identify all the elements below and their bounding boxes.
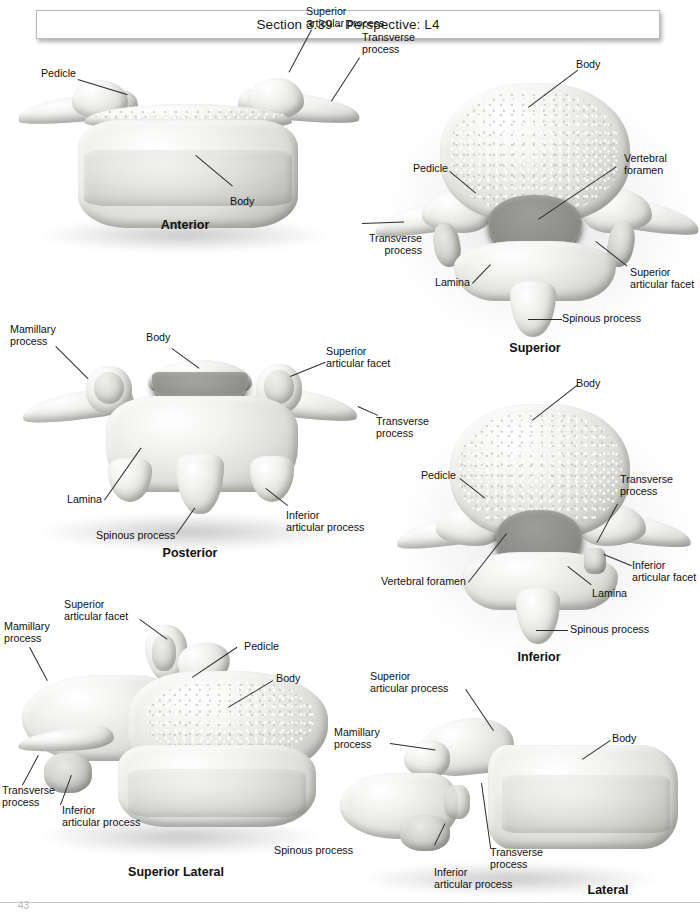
label-mamillary-process: Mamillary process <box>334 727 396 750</box>
label-mamillary-process: Mamillary process <box>4 621 66 644</box>
label-lamina: Lamina <box>52 494 102 506</box>
label-spinous-process: Spinous process <box>562 313 650 325</box>
atlas-page: Section 3.39 - Perspective: L4 Pedicle S… <box>0 0 700 913</box>
label-mamillary-process: Mamillary process <box>10 324 78 347</box>
caption-lateral: Lateral <box>558 883 658 897</box>
label-superior-articular-facet: Superior articular facet <box>630 267 700 290</box>
label-transverse-process: Transverse process <box>362 32 436 55</box>
label-inferior-articular-facet: Inferior articular facet <box>632 560 700 583</box>
view-posterior: Mamillary process Body Superior articula… <box>0 318 400 568</box>
label-pedicle: Pedicle <box>14 68 76 80</box>
label-body: Body <box>276 673 322 685</box>
label-transverse-process: Transverse process <box>620 474 690 497</box>
page-number: 43 <box>18 900 29 911</box>
label-inferior-articular-process: Inferior articular process <box>434 867 526 890</box>
view-anterior: Pedicle Superior articular process Trans… <box>0 0 370 250</box>
view-lateral: Superior articular process Mamillary pro… <box>330 665 700 913</box>
footer-divider <box>0 902 700 903</box>
label-spinous-process: Spinous process <box>570 624 658 636</box>
view-superior: Body Vertebral foramen Pedicle Transvers… <box>370 55 700 355</box>
label-pedicle: Pedicle <box>400 470 456 482</box>
label-body: Body <box>146 332 192 344</box>
label-body: Body <box>576 378 622 390</box>
label-pedicle: Pedicle <box>392 163 448 175</box>
label-pedicle: Pedicle <box>244 641 296 653</box>
label-superior-articular-process: Superior articular process <box>370 671 466 694</box>
label-transverse-process: Transverse process <box>356 233 422 256</box>
label-lamina: Lamina <box>592 588 644 600</box>
view-superior-lateral: Superior articular facet Mamillary proce… <box>0 605 360 895</box>
caption-superior-lateral: Superior Lateral <box>96 865 256 879</box>
caption-superior: Superior <box>480 341 590 355</box>
label-superior-articular-facet: Superior articular facet <box>64 599 146 622</box>
label-superior-articular-process: Superior articular process <box>306 6 402 29</box>
label-vertebral-foramen: Vertebral foramen <box>358 576 466 588</box>
label-body: Body <box>230 196 276 208</box>
label-inferior-articular-process: Inferior articular process <box>286 510 366 533</box>
view-inferior: Body Pedicle Transverse process Vertebra… <box>380 370 700 670</box>
label-lamina: Lamina <box>422 277 470 289</box>
caption-posterior: Posterior <box>130 546 250 560</box>
label-inferior-articular-process: Inferior articular process <box>62 805 154 828</box>
caption-anterior: Anterior <box>130 218 240 232</box>
label-body: Body <box>576 59 622 71</box>
label-transverse-process: Transverse process <box>2 785 64 808</box>
label-superior-articular-facet: Superior articular facet <box>326 346 414 369</box>
label-spinous-process: Spinous process <box>96 530 182 542</box>
caption-inferior: Inferior <box>484 650 594 664</box>
label-vertebral-foramen: Vertebral foramen <box>624 153 694 176</box>
label-body: Body <box>612 733 658 745</box>
